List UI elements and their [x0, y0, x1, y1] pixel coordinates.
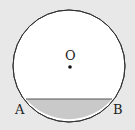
center-point [68, 65, 72, 69]
center-label: O [65, 48, 76, 63]
diagram-canvas: O A B [0, 0, 135, 130]
shaded-segment [26, 99, 112, 119]
point-b-label: B [113, 102, 123, 117]
circle-diagram: O A B [0, 0, 135, 130]
point-a-label: A [14, 102, 25, 117]
